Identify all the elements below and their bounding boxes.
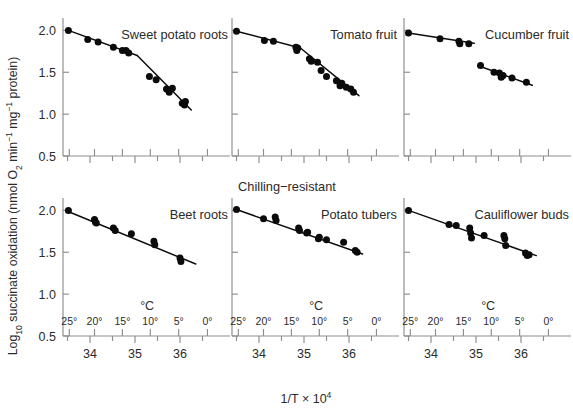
temp-tick-label: 25° <box>230 315 246 327</box>
data-point <box>182 98 189 105</box>
data-point <box>501 235 508 242</box>
arrhenius-plot-figure: Log10 succinate oxidation (nmol O2 min−1… <box>0 0 573 412</box>
panel-sweet-potato-roots: 2.01.51.00.5Sweet potato roots <box>39 18 230 164</box>
temp-tick-label: 10° <box>142 315 158 327</box>
data-point <box>323 236 330 243</box>
y-tick-label: 1.0 <box>39 288 56 302</box>
data-point <box>153 76 160 83</box>
data-point <box>260 215 267 222</box>
y-tick-label: 0.5 <box>39 150 56 164</box>
panel-title: Beet roots <box>170 207 228 222</box>
data-point <box>296 227 303 234</box>
x-tick-label: 35 <box>297 347 311 361</box>
data-point <box>304 229 311 236</box>
data-point <box>500 72 507 79</box>
panel-potato-tubers: 25°20°15°10°5°0°°C343536Potato tubers <box>230 198 399 361</box>
temp-tick-label: 5° <box>174 315 184 327</box>
temp-axis-label: °C <box>309 299 323 313</box>
y-tick-label: 2.0 <box>39 204 56 218</box>
panel-cucumber-fruit: Cucumber fruit <box>404 18 571 163</box>
temp-tick-label: 25° <box>402 315 418 327</box>
data-point <box>65 207 72 214</box>
data-point <box>354 249 361 256</box>
temp-tick-label: 0° <box>202 315 212 327</box>
temp-tick-label: 15° <box>455 315 471 327</box>
data-point <box>294 44 301 51</box>
panel-cauliflower-buds: 25°20°15°10°5°0°°C343536Cauliflower buds <box>402 198 571 361</box>
data-point <box>270 38 277 45</box>
figure-container: Log10 succinate oxidation (nmol O2 min−1… <box>0 0 573 412</box>
data-point <box>169 85 176 92</box>
data-point <box>465 40 472 47</box>
data-point <box>261 37 268 44</box>
data-point <box>323 73 330 80</box>
data-point <box>316 234 323 241</box>
x-tick-label: 36 <box>514 347 528 361</box>
data-point <box>125 49 132 56</box>
temp-tick-label: 25° <box>61 315 77 327</box>
panel-title: Potato tubers <box>321 207 397 222</box>
panel-title: Sweet potato roots <box>121 27 228 42</box>
data-point <box>93 219 100 226</box>
data-point <box>405 207 412 214</box>
temp-tick-label: 0° <box>543 315 553 327</box>
y-axis-label: Log10 succinate oxidation (nmol O2 min−1… <box>4 57 24 356</box>
x-tick-label: 36 <box>342 347 356 361</box>
data-point <box>523 79 530 86</box>
data-point <box>437 35 444 42</box>
data-point <box>233 28 240 35</box>
data-point <box>112 227 119 234</box>
fit-line-segment <box>237 31 301 48</box>
data-point <box>314 59 321 66</box>
temp-axis-label: °C <box>140 299 154 313</box>
temp-tick-label: 5° <box>515 315 525 327</box>
data-point <box>446 221 453 228</box>
panel-tomato-fruit: Tomato fruit <box>232 18 399 163</box>
data-point <box>509 75 516 82</box>
y-tick-label: 1.5 <box>39 66 56 80</box>
data-point <box>340 239 347 246</box>
svg-text:Log10 succinate oxidation (nmo: Log10 succinate oxidation (nmol O2 min−1… <box>4 57 24 356</box>
y-tick-label: 2.0 <box>39 24 56 38</box>
data-point <box>95 39 102 46</box>
data-point <box>128 230 135 237</box>
data-point <box>477 62 484 69</box>
temp-tick-label: 20° <box>87 315 103 327</box>
temp-axis-label: °C <box>481 299 495 313</box>
panel-title: Cauliflower buds <box>474 207 569 222</box>
data-point <box>453 222 460 229</box>
temp-tick-label: 15° <box>283 315 299 327</box>
temp-tick-label: 5° <box>343 315 353 327</box>
data-point <box>481 232 488 239</box>
temp-tick-label: 0° <box>371 315 381 327</box>
data-point <box>502 242 509 249</box>
data-point <box>405 29 412 36</box>
data-point <box>110 44 117 51</box>
data-point <box>308 58 315 65</box>
x-tick-label: 34 <box>83 347 97 361</box>
data-point <box>233 206 240 213</box>
temp-tick-label: 20° <box>256 315 272 327</box>
data-point <box>318 67 325 74</box>
temp-tick-label: 20° <box>428 315 444 327</box>
temp-tick-label: 10° <box>483 315 499 327</box>
temp-tick-label: 10° <box>311 315 327 327</box>
data-point <box>468 235 475 242</box>
y-tick-label: 1.5 <box>39 246 56 260</box>
panel-title: Tomato fruit <box>330 27 397 42</box>
data-point <box>456 40 463 47</box>
data-point <box>350 89 357 96</box>
data-point <box>146 73 153 80</box>
y-tick-label: 0.5 <box>39 330 56 344</box>
x-tick-label: 35 <box>128 347 142 361</box>
data-point <box>84 36 91 43</box>
x-tick-label: 34 <box>424 347 438 361</box>
panel-title: Cucumber fruit <box>485 27 569 42</box>
panel-beet-roots: 2.01.51.00.525°20°15°10°5°0°°C343536Beet… <box>39 198 230 361</box>
x-axis-label: 1/T × 104 <box>281 390 332 406</box>
x-tick-label: 35 <box>469 347 483 361</box>
y-tick-label: 1.0 <box>39 108 56 122</box>
data-point <box>151 241 158 248</box>
data-point <box>177 258 184 265</box>
x-tick-label: 34 <box>252 347 266 361</box>
